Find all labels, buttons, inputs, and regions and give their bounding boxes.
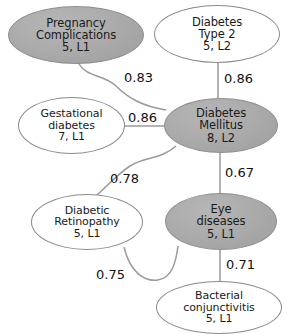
node-pregnancy-complications[interactable]: Pregnancy Complications 5, L1 — [8, 6, 144, 64]
node-label-line2: Mellitus — [199, 119, 243, 131]
graph-canvas: Pregnancy Complications 5, L1 Diabetes T… — [0, 0, 288, 334]
edge-weight-gestational-diabetes-diabetes-mellitus: 0.86 — [128, 111, 157, 124]
node-meta: 5, L2 — [203, 40, 231, 52]
node-gestational-diabetes[interactable]: Gestational diabetes 7, L1 — [18, 97, 125, 154]
node-meta: 5, L1 — [207, 228, 235, 240]
node-label-line1: Gestational — [41, 108, 103, 120]
edge-weight-diabetes-type-2-diabetes-mellitus: 0.86 — [224, 72, 253, 85]
edge-diabetic-retinopathy-to-eye-diseases — [124, 246, 178, 280]
node-meta: 5, L1 — [62, 41, 90, 53]
node-meta: 7, L1 — [58, 131, 85, 143]
node-diabetes-type-2[interactable]: Diabetes Type 2 5, L2 — [154, 5, 280, 63]
node-label-line2: diseases — [197, 215, 246, 227]
edge-weight-eye-diseases-bacterial-conjunctivitis: 0.71 — [226, 258, 255, 271]
node-bacterial-conjunctivitis[interactable]: Bacterial conjunctivitis 5, L1 — [156, 281, 282, 334]
edge-weight-pregnancy-complications-diabetes-mellitus: 0.83 — [124, 71, 153, 84]
node-meta: 8, L2 — [207, 132, 235, 144]
edge-weight-diabetic-retinopathy-eye-diseases: 0.75 — [96, 268, 125, 281]
node-meta: 5, L1 — [206, 313, 233, 325]
edge-weight-diabetes-mellitus-diabetic-retinopathy: 0.78 — [110, 172, 139, 185]
node-eye-diseases[interactable]: Eye diseases 5, L1 — [165, 193, 277, 250]
edge-weight-diabetes-mellitus-eye-diseases: 0.67 — [225, 166, 254, 179]
node-diabetic-retinopathy[interactable]: Diabetic Retinopathy 5, L1 — [31, 194, 143, 250]
node-meta: 5, L1 — [74, 228, 101, 240]
node-label-line1: Bacterial — [195, 290, 243, 302]
node-diabetes-mellitus[interactable]: Diabetes Mellitus 8, L2 — [164, 98, 278, 153]
